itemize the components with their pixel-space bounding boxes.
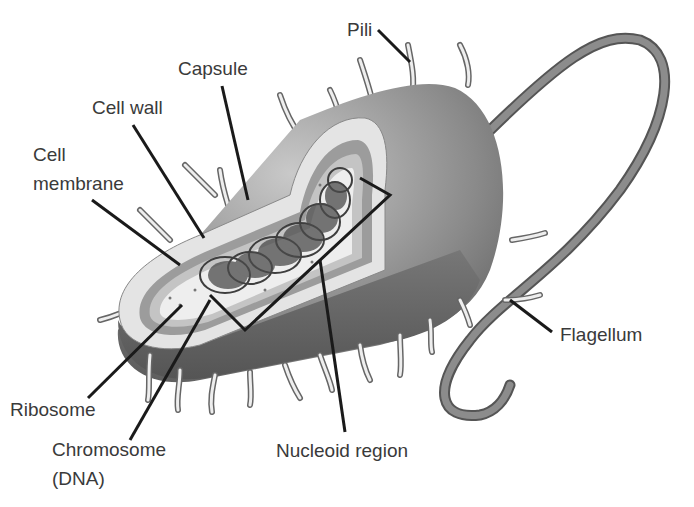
label-chromosome-line1: Chromosome <box>52 438 166 461</box>
label-flagellum: Flagellum <box>560 323 642 346</box>
label-nucleoid-region: Nucleoid region <box>276 439 408 462</box>
label-cell-membrane-line1: Cell <box>33 143 66 166</box>
label-pili: Pili <box>347 18 372 41</box>
label-chromosome-line2: (DNA) <box>52 467 105 490</box>
label-cell-membrane-line2: membrane <box>33 172 124 195</box>
label-capsule: Capsule <box>178 57 248 80</box>
diagram-graphic <box>0 0 694 507</box>
bacterium-diagram: Pili Capsule Cell wall Cell membrane Rib… <box>0 0 694 507</box>
label-ribosome: Ribosome <box>10 398 96 421</box>
label-cell-wall: Cell wall <box>92 96 163 119</box>
